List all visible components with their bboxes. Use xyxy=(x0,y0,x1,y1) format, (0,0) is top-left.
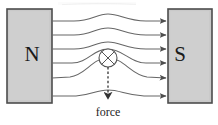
north-pole-label: N xyxy=(24,42,39,66)
scan-artifact xyxy=(58,2,136,5)
field-line-2 xyxy=(52,28,166,35)
force-label: force xyxy=(96,105,121,119)
south-magnet: S xyxy=(168,9,212,103)
diagram-canvas: N S force xyxy=(0,0,218,125)
field-line-3 xyxy=(52,42,166,49)
magnetic-field-diagram: N S force xyxy=(0,0,218,125)
field-line-1 xyxy=(52,14,166,21)
field-line-6 xyxy=(52,90,166,96)
north-magnet: N xyxy=(7,9,52,103)
current-into-page-symbol xyxy=(99,49,117,67)
south-pole-label: S xyxy=(174,42,186,66)
